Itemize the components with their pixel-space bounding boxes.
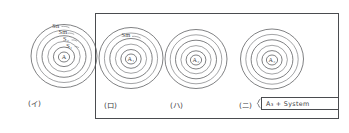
panel-ro-core-label: A₁ xyxy=(127,55,134,62)
panel-ro-caption: (ロ) xyxy=(104,101,117,110)
panel-ha-core-label: A₂ xyxy=(192,56,199,63)
annotation-brace xyxy=(257,99,260,108)
panel-ni: A₃ (ニ) A₃ + System xyxy=(239,29,339,110)
panel-i-ring-label-s1: S₁ xyxy=(66,42,72,49)
figure-root: A Sn Sm S₂ S₁ (イ) A₁ Sm xyxy=(0,0,349,133)
panel-ro-leader-sm xyxy=(132,36,141,38)
diagram-canvas: A Sn Sm S₂ S₁ (イ) A₁ Sm xyxy=(0,0,349,133)
panel-ni-core-label: A₃ xyxy=(268,56,275,63)
panel-ro-ring-label-sm: Sm xyxy=(122,31,131,38)
panel-i-caption: (イ) xyxy=(28,99,41,108)
panel-ro: A₁ Sm (ロ) xyxy=(99,28,163,111)
panel-ha-caption: (ハ) xyxy=(170,101,183,110)
annotation-text: A₃ + System xyxy=(266,100,309,108)
panel-i: A Sn Sm S₂ S₁ (イ) xyxy=(28,22,97,108)
panel-i-core-label: A xyxy=(62,53,67,60)
panel-ha: A₂ (ハ) xyxy=(165,30,227,111)
panel-ni-caption: (ニ) xyxy=(239,101,252,110)
panel-i-leader-s2 xyxy=(72,40,77,41)
